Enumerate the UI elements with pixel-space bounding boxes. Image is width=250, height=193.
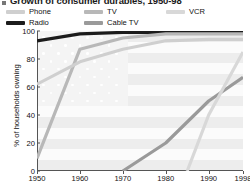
legend-swatch-icon xyxy=(166,10,185,14)
legend-swatch-icon xyxy=(84,21,103,25)
x-tick-mark xyxy=(80,171,81,174)
title-bullet-icon xyxy=(2,1,6,5)
plot-area xyxy=(37,31,243,171)
series-lines xyxy=(37,31,243,171)
legend-swatch-icon xyxy=(6,21,25,25)
series-line-cable-tv xyxy=(123,77,243,171)
legend-swatch-icon xyxy=(6,10,25,14)
y-tick-mark xyxy=(37,115,40,116)
series-line-vcr xyxy=(187,52,243,171)
y-tick-label: 20 xyxy=(27,139,35,148)
x-tick-label: 1998 xyxy=(235,174,250,183)
y-tick-label: 100 xyxy=(22,27,35,36)
chart-figure: Growth of consumer durables, 1950-98 Pho… xyxy=(0,0,250,193)
y-tick-mark xyxy=(37,143,40,144)
y-tick-mark xyxy=(37,87,40,88)
x-tick-mark xyxy=(209,171,210,174)
y-tick-mark xyxy=(37,31,40,32)
legend-item-cable-tv[interactable]: Cable TV xyxy=(84,19,139,27)
x-tick-mark xyxy=(166,171,167,174)
chart-title: Growth of consumer durables, 1950-98 xyxy=(10,0,250,6)
legend-item-radio[interactable]: Radio xyxy=(6,19,49,27)
chart-legend: PhoneTVVCRRadioCable TV xyxy=(6,8,250,29)
x-tick-label: 1980 xyxy=(157,174,174,183)
x-tick-label: 1990 xyxy=(200,174,217,183)
legend-item-phone[interactable]: Phone xyxy=(6,8,51,16)
x-tick-label: 1950 xyxy=(29,174,46,183)
y-tick-label: 80 xyxy=(27,55,35,64)
legend-swatch-icon xyxy=(84,10,103,14)
x-tick-mark xyxy=(123,171,124,174)
series-line-tv xyxy=(37,34,243,159)
legend-item-tv[interactable]: TV xyxy=(84,8,117,16)
x-tick-label: 1970 xyxy=(114,174,131,183)
y-tick-mark xyxy=(37,171,40,172)
legend-item-label: Phone xyxy=(29,8,51,16)
y-tick-label: 60 xyxy=(27,83,35,92)
x-tick-mark xyxy=(243,171,244,174)
y-tick-label: 40 xyxy=(27,111,35,120)
y-axis-label: % of households owning xyxy=(12,46,21,166)
legend-item-label: Radio xyxy=(29,19,49,27)
legend-item-label: VCR xyxy=(189,8,205,16)
legend-item-label: Cable TV xyxy=(107,19,139,27)
legend-item-label: TV xyxy=(107,8,117,16)
y-tick-mark xyxy=(37,59,40,60)
x-tick-label: 1960 xyxy=(71,174,88,183)
legend-item-vcr[interactable]: VCR xyxy=(166,8,205,16)
